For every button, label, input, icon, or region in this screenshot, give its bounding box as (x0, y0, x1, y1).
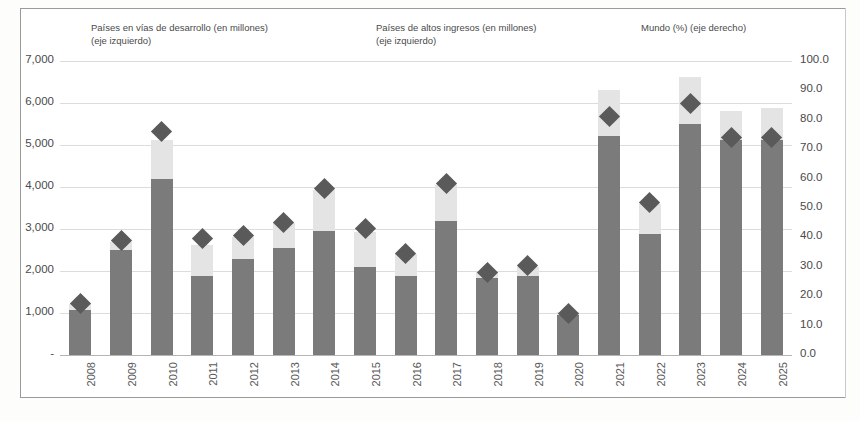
y-axis-right-tick-label: 40.0 (800, 229, 850, 241)
y-axis-right-tick-label: 50.0 (800, 200, 850, 212)
x-axis-tick-label: 2014 (329, 362, 341, 386)
bar-segment-developing (598, 136, 620, 355)
legend-item-developing[interactable]: Países en vías de desarrollo (en millone… (78, 22, 268, 47)
y-axis-left-tick-label: 3,000 (8, 221, 54, 233)
bar-segment-high-income (191, 245, 213, 277)
bar-segment-high-income (151, 140, 173, 179)
y-axis-right-tick-label: 30.0 (800, 259, 850, 271)
bar-group[interactable] (720, 61, 742, 355)
bar-group[interactable] (151, 61, 173, 355)
bar-segment-developing (273, 248, 295, 355)
x-axis-tick-label: 2011 (207, 362, 219, 386)
y-axis-left-tick-label: - (8, 347, 54, 359)
bar-segment-developing (354, 267, 376, 355)
y-axis-right-tick-label: 60.0 (800, 171, 850, 183)
x-axis-tick-label: 2012 (248, 362, 260, 386)
legend-item-world[interactable]: Mundo (%) (eje derecho) (628, 22, 746, 35)
bar-segment-developing (476, 278, 498, 355)
x-axis-tick-label: 2018 (492, 362, 504, 386)
bar-segment-developing (679, 124, 701, 355)
y-axis-left-tick-label: 6,000 (8, 95, 54, 107)
bar-segment-developing (435, 221, 457, 355)
x-axis-baseline (60, 355, 792, 356)
y-axis-right-tick-label: 10.0 (800, 318, 850, 330)
legend-label-high-income-line1: Países de altos ingresos (en millones) (376, 22, 537, 35)
bar-group[interactable] (517, 61, 539, 355)
bar-group[interactable] (313, 61, 335, 355)
y-axis-right-tick-label: 100.0 (800, 53, 850, 65)
bar-segment-developing (151, 179, 173, 355)
bar-segment-developing (69, 310, 91, 355)
bar-segment-developing (191, 276, 213, 355)
x-axis-tick-label: 2021 (614, 362, 626, 386)
y-axis-right-tick-label: 90.0 (800, 82, 850, 94)
x-axis-tick-label: 2010 (167, 362, 179, 386)
bar-segment-developing (517, 276, 539, 355)
y-axis-right-tick-label: 0.0 (800, 347, 850, 359)
bar-group[interactable] (273, 61, 295, 355)
bar-group[interactable] (435, 61, 457, 355)
plot-area (60, 61, 792, 355)
bar-segment-developing (313, 231, 335, 355)
bar-group[interactable] (476, 61, 498, 355)
x-axis-tick-label: 2015 (370, 362, 382, 386)
legend-label-world-line1: Mundo (%) (eje derecho) (641, 22, 746, 35)
bar-group[interactable] (354, 61, 376, 355)
bar-group[interactable] (232, 61, 254, 355)
bar-segment-developing (639, 234, 661, 355)
bar-segment-developing (110, 250, 132, 355)
legend-item-high-income[interactable]: Países de altos ingresos (en millones) (… (363, 22, 537, 47)
y-axis-left-tick-label: 1,000 (8, 305, 54, 317)
y-axis-left-tick-label: 2,000 (8, 263, 54, 275)
legend-label-developing-line1: Países en vías de desarrollo (en millone… (91, 22, 268, 35)
x-axis-tick-label: 2016 (411, 362, 423, 386)
x-axis-tick-label: 2020 (573, 362, 585, 386)
x-axis-tick-label: 2025 (777, 362, 789, 386)
bar-group[interactable] (191, 61, 213, 355)
bar-group[interactable] (395, 61, 417, 355)
x-axis-tick-label: 2023 (695, 362, 707, 386)
chart-legend: Países en vías de desarrollo (en millone… (78, 22, 818, 54)
bar-group[interactable] (110, 61, 132, 355)
legend-label-developing-line2: (eje izquierdo) (91, 35, 268, 48)
y-axis-right-tick-label: 70.0 (800, 141, 850, 153)
x-axis-tick-label: 2022 (655, 362, 667, 386)
y-axis-right-tick-label: 80.0 (800, 112, 850, 124)
bar-segment-developing (395, 276, 417, 355)
x-axis-tick-label: 2013 (289, 362, 301, 386)
x-axis-tick-label: 2024 (736, 362, 748, 386)
bar-segment-developing (232, 259, 254, 355)
x-axis-tick-label: 2008 (85, 362, 97, 386)
y-axis-left-tick-label: 5,000 (8, 137, 54, 149)
x-axis-tick-label: 2017 (451, 362, 463, 386)
legend-swatch-world-diamond-icon (628, 24, 629, 37)
y-axis-right-tick-label: 20.0 (800, 288, 850, 300)
x-axis-tick-label: 2009 (126, 362, 138, 386)
bar-segment-developing (720, 140, 742, 355)
x-axis-tick-label: 2019 (533, 362, 545, 386)
legend-label-high-income-line2: (eje izquierdo) (376, 35, 537, 48)
y-axis-left-tick-label: 4,000 (8, 179, 54, 191)
y-axis-left-tick-label: 7,000 (8, 53, 54, 65)
bar-group[interactable] (761, 61, 783, 355)
bar-segment-developing (761, 140, 783, 355)
chart-page: Países en vías de desarrollo (en millone… (0, 0, 860, 421)
